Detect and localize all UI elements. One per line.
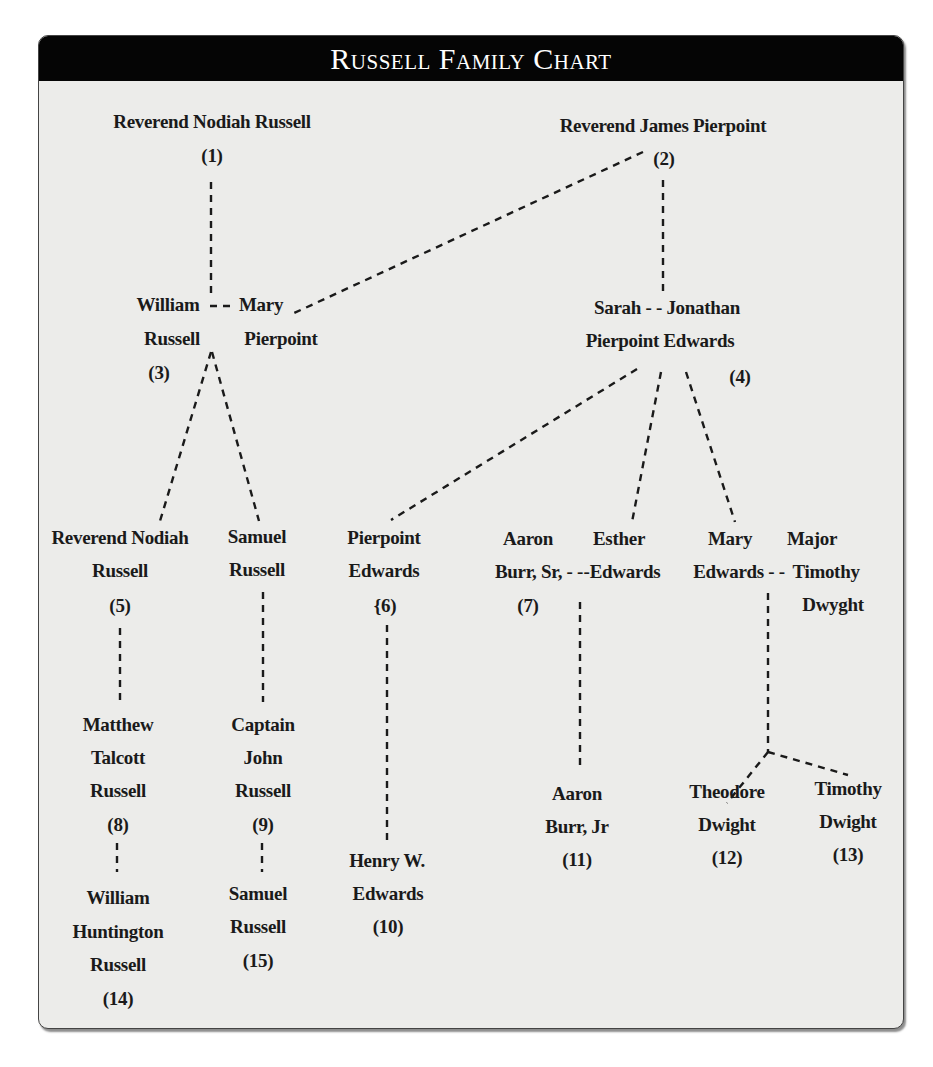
person-12-number: (12) <box>712 847 742 869</box>
person-6-last: Edwards <box>349 560 420 582</box>
samuel-last: Russell <box>229 559 285 581</box>
person-10-first: Henry W. <box>349 850 425 872</box>
person-4-couple-last: Pierpoint Edwards <box>586 330 735 352</box>
person-5-first: Reverend Nodiah <box>51 527 188 549</box>
person-8-middle: Talcott <box>91 747 145 769</box>
person-11-first: Aaron <box>552 783 602 805</box>
person-4-couple-first: Sarah - - Jonathan <box>594 297 740 319</box>
mary-edwards-first: Mary <box>708 528 752 550</box>
person-8-last: Russell <box>90 780 146 802</box>
person-10-number: (10) <box>373 916 403 938</box>
person-10-last: Edwards <box>353 883 424 905</box>
person-3-number: (3) <box>148 362 169 384</box>
person-3-first: William <box>137 294 200 316</box>
chart-title: Russell Family Chart <box>39 36 903 81</box>
person-1-name: Reverend Nodiah Russell <box>113 111 311 133</box>
person-5-last: Russell <box>92 560 148 582</box>
person-15-last: Russell <box>230 916 286 938</box>
person-6-number: {6) <box>374 595 396 617</box>
person-1-number: (1) <box>201 145 222 167</box>
person-14-number: (14) <box>103 988 133 1010</box>
person-2-number: (2) <box>653 148 674 170</box>
person-9-number: (9) <box>252 814 273 836</box>
person-14-first: William <box>87 887 150 909</box>
person-6-first: Pierpoint <box>347 527 420 549</box>
person-9-title: Captain <box>231 714 294 736</box>
major-first: Timothy <box>792 561 859 583</box>
person-7-number: (7) <box>517 595 538 617</box>
person-13-first: Timothy <box>814 778 881 800</box>
person-12-last: Dwight <box>698 814 755 836</box>
person-2-name: Reverend James Pierpoint <box>560 115 767 137</box>
person-8-first: Matthew <box>83 714 154 736</box>
person-15-first: Samuel <box>229 883 287 905</box>
person-5-number: (5) <box>109 595 130 617</box>
chart-header: Russell Family Chart <box>39 36 903 81</box>
major-last: Dwyght <box>802 594 864 616</box>
person-15-number: (15) <box>243 950 273 972</box>
esther-first: Esther <box>593 528 645 550</box>
person-8-number: (8) <box>107 814 128 836</box>
person-11-number: (11) <box>562 849 591 871</box>
person-9-last: Russell <box>235 780 291 802</box>
major-title: Major <box>787 528 837 550</box>
esther-last: -Edwards <box>584 561 661 583</box>
person-13-number: (13) <box>833 844 863 866</box>
person-9-first: John <box>244 747 283 769</box>
person-11-last: Burr, Jr <box>545 816 608 838</box>
person-4-number: (4) <box>729 366 750 388</box>
person-14-middle: Huntington <box>73 921 164 943</box>
spouse-3-first: Mary <box>239 294 283 316</box>
person-7-last: Burr, Sr, - - <box>495 561 583 583</box>
mary-edwards-last: Edwards - - <box>693 561 785 583</box>
person-14-last: Russell <box>90 954 146 976</box>
person-12-first: Theodore <box>689 781 764 803</box>
samuel-first: Samuel <box>228 526 286 548</box>
person-7-first: Aaron <box>503 528 553 550</box>
spouse-3-last: Pierpoint <box>244 328 317 350</box>
person-3-last: Russell <box>144 328 200 350</box>
person-13-last: Dwight <box>819 811 876 833</box>
